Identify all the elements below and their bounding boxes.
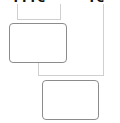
connector-horizontal	[38, 75, 104, 76]
bracket-right-vertical	[60, 4, 61, 20]
bracket-horizontal	[17, 19, 61, 20]
diagram-node-1[interactable]	[9, 23, 67, 63]
diagram-node-2[interactable]	[42, 80, 99, 120]
bracket-left-vertical	[17, 4, 18, 20]
connector-up	[103, 4, 104, 76]
